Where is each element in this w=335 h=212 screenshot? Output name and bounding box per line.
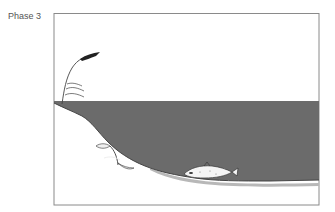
lake-diagram [0, 0, 335, 212]
